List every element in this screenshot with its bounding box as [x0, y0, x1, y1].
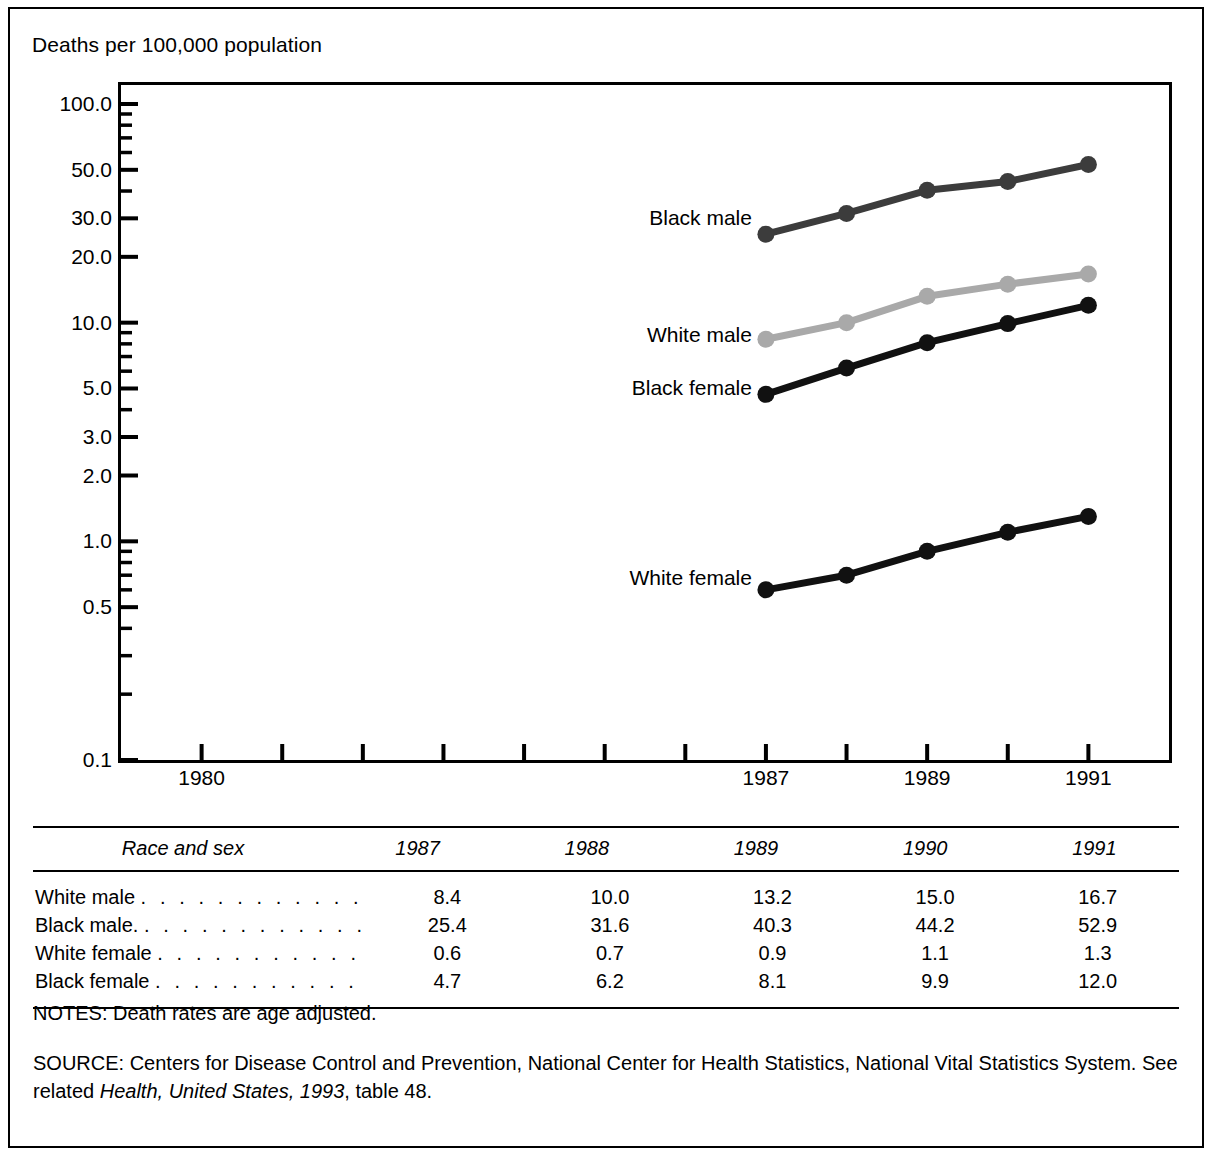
table-row: Black male. . . . . . . . . . . . .25.43… [33, 911, 1179, 939]
data-point [919, 288, 936, 305]
source-suffix: , table 48. [344, 1080, 432, 1102]
row-leader-dots: . . . . . . . . . . . [155, 970, 358, 992]
table-cell: 10.0 [529, 883, 692, 911]
table-cell: 25.4 [366, 911, 529, 939]
table-cell: 8.1 [691, 967, 854, 995]
source-text: SOURCE: Centers for Disease Control and … [33, 1050, 1178, 1105]
y-axis-tick-label: 0.1 [16, 748, 112, 772]
y-axis-tick-label: 20.0 [16, 245, 112, 269]
table-row: White male . . . . . . . . . . . .8.410.… [33, 883, 1179, 911]
table: Race and sex 1987 1988 1989 1990 1991 [33, 828, 1179, 870]
series-label-white-female: White female [629, 566, 752, 590]
x-axis-tick-label: 1989 [904, 766, 951, 790]
table-cell: 15.0 [854, 883, 1017, 911]
y-axis-tick-label: 2.0 [16, 464, 112, 488]
data-point [919, 182, 936, 199]
table-row-label: Black female . . . . . . . . . . . [33, 967, 366, 995]
y-axis-tick-label: 100.0 [16, 92, 112, 116]
data-point [838, 360, 855, 377]
y-axis-tick-label: 1.0 [16, 529, 112, 553]
data-point [1080, 297, 1097, 314]
data-point [999, 276, 1016, 293]
x-axis-tick-label: 1991 [1065, 766, 1112, 790]
table-header-1987: 1987 [333, 828, 502, 870]
table-cell: 40.3 [691, 911, 854, 939]
row-label-text: Black male. [35, 914, 144, 936]
series-label-black-female: Black female [632, 376, 752, 400]
row-leader-dots: . . . . . . . . . . . . [144, 914, 366, 936]
table-body: White male . . . . . . . . . . . .8.410.… [33, 883, 1179, 995]
y-axis-tick-label: 3.0 [16, 425, 112, 449]
series-label-black-male: Black male [649, 206, 752, 230]
data-point [999, 524, 1016, 541]
plot-area [118, 82, 1172, 763]
table-cell: 0.7 [529, 939, 692, 967]
data-point [1080, 508, 1097, 525]
table-header-1989: 1989 [671, 828, 840, 870]
series-label-white-male: White male [647, 323, 752, 347]
table-header-race-and-sex: Race and sex [33, 828, 333, 870]
data-point [838, 205, 855, 222]
table-row-label: White male . . . . . . . . . . . . [33, 883, 366, 911]
table-row: Black female . . . . . . . . . . .4.76.2… [33, 967, 1179, 995]
table-cell: 16.7 [1016, 883, 1179, 911]
table-cell: 0.6 [366, 939, 529, 967]
table-cell: 0.9 [691, 939, 854, 967]
data-point [757, 331, 774, 348]
row-label-text: White male [35, 886, 141, 908]
data-point [757, 226, 774, 243]
table-cell: 1.3 [1016, 939, 1179, 967]
data-point [919, 334, 936, 351]
y-axis-tick-label: 30.0 [16, 206, 112, 230]
table-header-1988: 1988 [502, 828, 671, 870]
x-axis-tick-label: 1980 [178, 766, 225, 790]
chart-canvas [121, 85, 1169, 760]
table-cell: 44.2 [854, 911, 1017, 939]
table-cell: 12.0 [1016, 967, 1179, 995]
data-point [1080, 156, 1097, 173]
table-header-1991: 1991 [1010, 828, 1179, 870]
table-cell: 1.1 [854, 939, 1017, 967]
data-point [999, 315, 1016, 332]
source-citation-title: Health, United States, 1993 [100, 1080, 345, 1102]
data-point [757, 581, 774, 598]
data-point [757, 386, 774, 403]
table-cell: 13.2 [691, 883, 854, 911]
y-axis-tick-labels: 100.050.030.020.010.05.03.02.01.00.50.1 [8, 82, 112, 763]
y-axis-title: Deaths per 100,000 population [32, 33, 322, 57]
table-header-1990: 1990 [841, 828, 1010, 870]
data-point [838, 567, 855, 584]
data-point [1080, 265, 1097, 282]
table-cell: 6.2 [529, 967, 692, 995]
table-header-row: Race and sex 1987 1988 1989 1990 1991 [33, 828, 1179, 870]
table-row: White female . . . . . . . . . . .0.60.7… [33, 939, 1179, 967]
x-axis-tick-labels: 1980198719891991 [118, 766, 1172, 806]
row-label-text: White female [35, 942, 157, 964]
data-point [838, 314, 855, 331]
table-row-label: White female . . . . . . . . . . . [33, 939, 366, 967]
table-cell: 9.9 [854, 967, 1017, 995]
figure-page: Deaths per 100,000 population 100.050.03… [0, 0, 1214, 1157]
table-cell: 52.9 [1016, 911, 1179, 939]
table-cell: 31.6 [529, 911, 692, 939]
table-cell: 4.7 [366, 967, 529, 995]
row-leader-dots: . . . . . . . . . . . [157, 942, 360, 964]
data-point [919, 543, 936, 560]
y-axis-tick-label: 10.0 [16, 311, 112, 335]
table-cell: 8.4 [366, 883, 529, 911]
y-axis-tick-label: 0.5 [16, 595, 112, 619]
y-axis-tick-label: 5.0 [16, 376, 112, 400]
series-line-black-male [766, 164, 1088, 234]
x-axis-tick-label: 1987 [743, 766, 790, 790]
data-point [999, 173, 1016, 190]
notes-text: NOTES: Death rates are age adjusted. [33, 1000, 1173, 1027]
table-row-label: Black male. . . . . . . . . . . . . [33, 911, 366, 939]
row-label-text: Black female [35, 970, 155, 992]
data-table: Race and sex 1987 1988 1989 1990 1991 Wh… [33, 826, 1179, 1009]
y-axis-tick-label: 50.0 [16, 158, 112, 182]
series-line-white-male [766, 274, 1088, 339]
row-leader-dots: . . . . . . . . . . . . [141, 886, 363, 908]
